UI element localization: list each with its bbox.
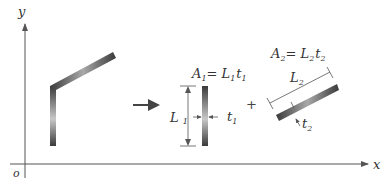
l-shape-inclined-segment: [50, 52, 116, 90]
l-shape-vertical-segment: [50, 86, 56, 146]
original-l-shape: [50, 52, 116, 146]
diagram-canvas: y x o L 1 t1 A1= L1t1 +: [0, 0, 387, 184]
part2-area-formula: A2= L2t2: [270, 46, 326, 63]
part2-length-label: L2: [289, 70, 304, 87]
part1-area-formula: A1= L1t1: [191, 66, 247, 83]
transform-arrow-icon: [133, 99, 160, 111]
part1-vertical-segment: L 1 t1 A1= L1t1: [169, 66, 247, 146]
part1-length-label: L 1: [169, 110, 188, 126]
part1-bar: [202, 86, 208, 146]
x-axis-label: x: [373, 157, 381, 172]
part2-inclined-segment: L2 t2 A2= L2t2: [267, 46, 339, 133]
origin-label: o: [13, 167, 20, 180]
part2-bar: [276, 84, 339, 121]
y-axis-label: y: [17, 4, 26, 19]
part1-thickness-label: t1: [227, 109, 237, 126]
plus-sign: +: [246, 97, 257, 112]
part2-thickness-label: t2: [302, 116, 312, 133]
